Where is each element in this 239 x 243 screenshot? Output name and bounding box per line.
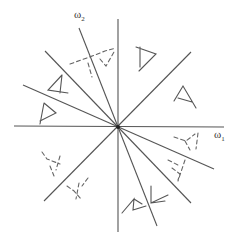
- glyph-solid-a-bottom-right: [151, 186, 168, 203]
- glyph-solid-a-left: [40, 103, 56, 124]
- glyph-solid-a-upper-left: [48, 75, 68, 93]
- frequency-plane-plot: [0, 0, 239, 243]
- diagram-canvas: ω2 ω1: [0, 0, 239, 243]
- glyph-solid-a-right: [174, 86, 196, 108]
- glyph-dashed-right-lower: [168, 160, 185, 181]
- x-axis-label: ω1: [214, 129, 225, 143]
- y-axis-label-subscript: 2: [81, 15, 85, 23]
- glyph-dashed-lower-left: [67, 178, 88, 200]
- glyph-solid-a-bottom-left: [122, 199, 146, 213]
- glyph-solid-d-upper-right: [136, 47, 156, 71]
- y-axis-label: ω2: [74, 9, 85, 23]
- x-axis-label-subscript: 1: [221, 135, 225, 143]
- glyph-dashed-left: [42, 152, 60, 176]
- origin-point: [116, 125, 120, 129]
- glyph-dashed-right-upper: [174, 133, 198, 150]
